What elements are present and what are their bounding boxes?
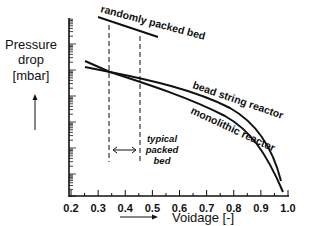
y-axis-label-line2: drop: [18, 52, 44, 67]
typical-range-markers: [109, 25, 140, 162]
x-tick-label: 0.4: [118, 202, 134, 214]
annotation-packed: packed: [145, 144, 179, 155]
x-tick-label: 0.2: [63, 202, 78, 214]
voidage-pressure-chart: Pressure drop [mbar] 0.20.30.40.50.60.70…: [0, 0, 315, 226]
x-tick-label: 0.5: [145, 202, 160, 214]
double-arrow-icon: [113, 147, 136, 153]
annotation-typical: typical: [147, 133, 177, 144]
x-axis-label: Voidage [-]: [172, 210, 234, 225]
x-arrow-icon: [120, 215, 158, 220]
y-axis-label-line1: Pressure: [5, 37, 57, 52]
series-bead-string-reactor: [85, 67, 281, 181]
x-tick-label: 0.3: [90, 202, 105, 214]
x-ticks: [71, 190, 288, 196]
x-tick-label: 0.9: [253, 202, 268, 214]
annotation-bed: bed: [154, 155, 171, 166]
y-ticks: [69, 19, 76, 196]
y-axis-label-line3: [mbar]: [13, 68, 50, 83]
x-tick-label: 1.0: [280, 202, 295, 214]
y-arrow-icon: [33, 94, 38, 130]
